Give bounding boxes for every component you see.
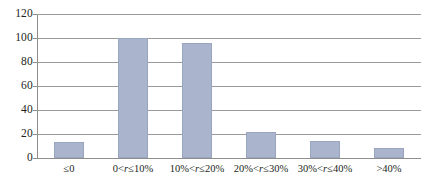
x-axis-labels: ≤00<r≤10%10%<r≤20%20%<r≤30%30%<r≤40%>40% xyxy=(37,163,421,189)
x-tick-label: 20%<r≤30% xyxy=(229,163,293,175)
x-tick-label: >40% xyxy=(357,163,421,175)
bar xyxy=(246,132,276,158)
bar-chart-figure: 020406080100120 ≤00<r≤10%10%<r≤20%20%<r≤… xyxy=(0,0,436,193)
x-tick-label: 0<r≤10% xyxy=(101,163,165,175)
gridline-80 xyxy=(37,62,421,63)
bar xyxy=(374,148,404,158)
y-tick-label-100: 100 xyxy=(1,32,33,44)
bar xyxy=(310,141,340,158)
gridline-100 xyxy=(37,38,421,39)
bar xyxy=(54,142,84,158)
x-tick-label: 10%<r≤20% xyxy=(165,163,229,175)
y-tick-label-0: 0 xyxy=(1,152,33,164)
y-tick-label-120: 120 xyxy=(1,8,33,20)
gridline-60 xyxy=(37,86,421,87)
x-tick-label: ≤0 xyxy=(37,163,101,175)
bar xyxy=(118,38,148,158)
gridline-120 xyxy=(37,14,421,15)
gridline-0 xyxy=(37,158,421,159)
y-tick-label-60: 60 xyxy=(1,80,33,92)
y-tick-label-80: 80 xyxy=(1,56,33,68)
y-tick-label-20: 20 xyxy=(1,128,33,140)
plot-area xyxy=(37,14,421,158)
gridline-40 xyxy=(37,110,421,111)
y-axis-labels: 020406080100120 xyxy=(0,0,33,193)
bar xyxy=(182,43,212,158)
y-tick-label-40: 40 xyxy=(1,104,33,116)
x-tick-label: 30%<r≤40% xyxy=(293,163,357,175)
gridline-20 xyxy=(37,134,421,135)
